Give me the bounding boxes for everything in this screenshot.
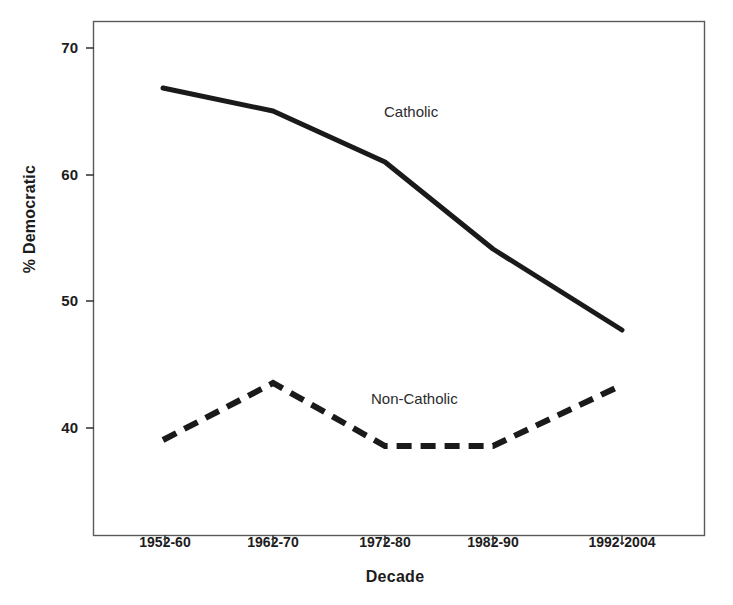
plot-frame bbox=[94, 22, 705, 536]
series-line-catholic bbox=[163, 88, 622, 330]
series-line-non-catholic bbox=[163, 383, 622, 446]
x-axis-ticks bbox=[165, 535, 622, 545]
plot-canvas bbox=[0, 0, 733, 605]
line-chart: % Democratic Decade 70 60 50 40 1952-60 … bbox=[0, 0, 733, 605]
